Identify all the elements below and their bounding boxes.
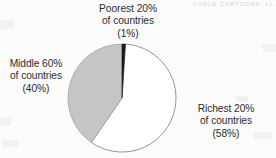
- pie-chart-figure: Poorest 20% of countries (1%) Middle 60%…: [0, 0, 276, 158]
- pie-label-middle: Middle 60% of countries (40%): [2, 58, 70, 95]
- pie-label-middle-line1: Middle 60%: [2, 58, 70, 70]
- pie-label-poorest-line1: Poorest 20%: [73, 3, 183, 15]
- pie-slices: [68, 44, 176, 152]
- pie-label-richest-line2: of countries: [180, 115, 272, 127]
- pie-label-poorest-value: (1%): [73, 28, 183, 40]
- pie-label-richest-value: (58%): [180, 128, 272, 140]
- pie-label-middle-line2: of countries: [2, 70, 70, 82]
- watermark-text: CAGLE CARTOONS, LL: [193, 1, 274, 7]
- pie-label-poorest-line2: of countries: [73, 15, 183, 27]
- pie-label-poorest: Poorest 20% of countries (1%): [73, 3, 183, 40]
- pie-label-richest-line1: Richest 20%: [180, 103, 272, 115]
- pie-label-richest: Richest 20% of countries (58%): [180, 103, 272, 140]
- pie-label-middle-value: (40%): [2, 83, 70, 95]
